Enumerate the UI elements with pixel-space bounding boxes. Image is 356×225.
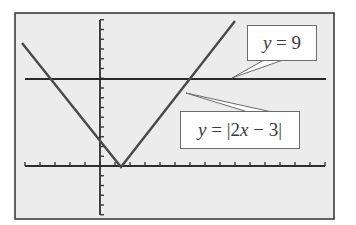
label-var-x: x <box>240 119 248 141</box>
label-text: = |2 <box>206 119 240 141</box>
graph-figure: y = 9 y = |2x − 3| <box>0 0 356 225</box>
label-var: y <box>263 32 271 54</box>
x-axis <box>25 162 325 166</box>
label-abs-2x-minus-3: y = |2x − 3| <box>180 111 300 149</box>
label-text: − 3| <box>248 119 282 141</box>
label-text: = 9 <box>271 32 301 54</box>
label-var: y <box>198 119 206 141</box>
y-axis <box>100 20 104 215</box>
label-y-equals-9: y = 9 <box>247 25 317 61</box>
